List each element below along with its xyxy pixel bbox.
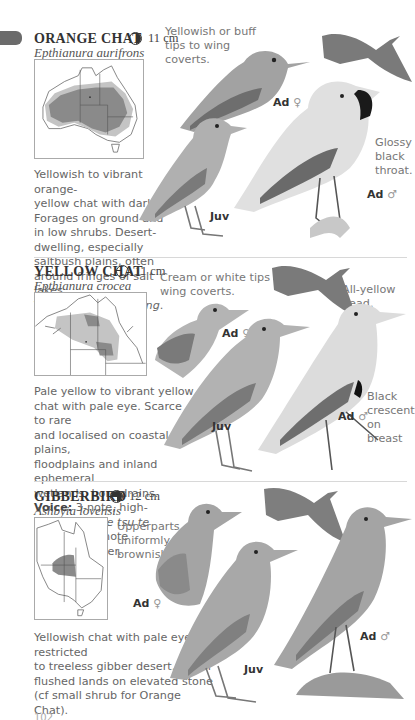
plumage-label: Juv: [210, 210, 229, 223]
plumage-label: Ad ♀: [273, 96, 301, 109]
half-filled-circle-icon: [129, 32, 142, 45]
empty-circle-icon: [116, 265, 129, 278]
female-symbol-icon: ♀: [293, 96, 301, 109]
label-text: Ad: [273, 96, 289, 109]
label-text: Ad: [338, 410, 354, 423]
male-symbol-icon: ♂: [387, 188, 397, 201]
bird-illustration-adult-male: [250, 300, 410, 475]
size-info: 11 cm: [116, 264, 165, 279]
bird-illustration-adult-male: [230, 78, 415, 258]
range-map: [34, 59, 144, 159]
label-text: Ad: [367, 188, 383, 201]
label-text: Ad: [133, 597, 149, 610]
plumage-label: Ad ♂: [360, 630, 390, 643]
male-symbol-icon: ♂: [380, 630, 390, 643]
plumage-label: Juv: [212, 420, 231, 433]
label-text: Juv: [244, 663, 263, 676]
plumage-label: Ad ♂: [338, 410, 368, 423]
male-symbol-icon: ♂: [358, 410, 368, 423]
bird-illustration-adult-male: [270, 495, 415, 705]
label-text: Juv: [212, 420, 231, 433]
range-map: [34, 292, 147, 376]
plumage-label: Juv: [244, 663, 263, 676]
three-quarter-filled-circle-icon: [110, 490, 123, 503]
section-tab-marker: [0, 31, 22, 45]
section-divider: [34, 257, 407, 258]
range-map: [34, 517, 108, 620]
label-text: Juv: [210, 210, 229, 223]
page-number: 102: [34, 712, 53, 720]
label-text: Ad: [360, 630, 376, 643]
plumage-label: Ad ♂: [367, 188, 397, 201]
plumage-label: Ad ♀: [133, 597, 161, 610]
section-divider: [34, 481, 407, 482]
